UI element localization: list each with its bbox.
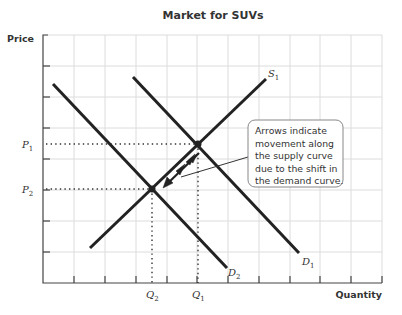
demand-curve-d2	[53, 84, 227, 268]
callout-line-1: Arrows indicate	[255, 125, 327, 136]
equilibrium-point-e2	[149, 186, 156, 193]
y-axis-label: Price	[7, 33, 34, 44]
d1-label: D1	[301, 256, 315, 270]
chart-title: Market for SUVs	[163, 9, 264, 22]
callout-line-2: movement along	[255, 138, 334, 149]
d2-label: D2	[227, 267, 241, 281]
callout-line-3: the supply curve	[255, 150, 333, 161]
p2-label: P2	[21, 184, 33, 198]
callout-line-4: due to the shift in	[255, 163, 338, 174]
s1-label: S1	[268, 68, 279, 82]
equilibrium-point-e1	[195, 141, 202, 148]
q1-label: Q1	[192, 289, 205, 303]
callout-line-5: the demand curve.	[255, 175, 343, 186]
chart: Market for SUVs	[0, 0, 402, 315]
q2-label: Q2	[146, 289, 159, 303]
callout-box: Arrows indicate movement along the suppl…	[248, 120, 343, 187]
p1-label: P1	[21, 139, 33, 153]
supply-curve-s1	[90, 79, 266, 248]
x-axis-label: Quantity	[335, 289, 382, 300]
movement-arrows-icon	[163, 153, 199, 188]
